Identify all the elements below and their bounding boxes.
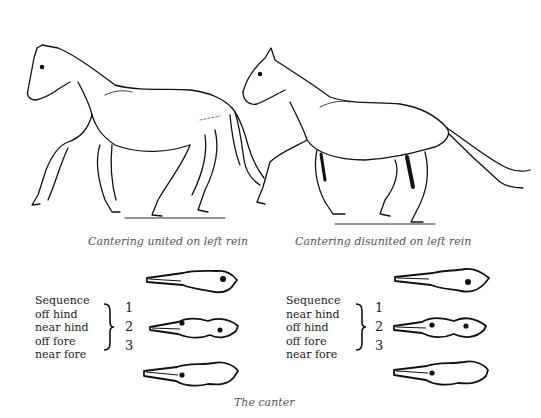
step-number: 1 bbox=[375, 298, 383, 317]
horse-united-illustration bbox=[20, 20, 270, 225]
step-number: 3 bbox=[375, 336, 383, 355]
footprint-united-1 bbox=[145, 265, 240, 300]
caption-united: Cantering united on left rein bbox=[88, 235, 248, 248]
sequence-item: near fore bbox=[35, 348, 89, 362]
step-number: 2 bbox=[375, 317, 383, 336]
sequence-list-united: Sequence off hind near hind off fore nea… bbox=[35, 294, 89, 362]
sequence-list-disunited: Sequence near hind off hind off fore nea… bbox=[286, 294, 340, 362]
sequence-label: Sequence bbox=[35, 294, 89, 308]
step-numbers-united: 1 2 3 bbox=[125, 298, 133, 355]
sequence-item: off fore bbox=[286, 335, 340, 349]
footprint-disunited-1 bbox=[393, 265, 493, 300]
brace-icon bbox=[102, 302, 116, 352]
sequence-item: near hind bbox=[286, 308, 340, 322]
footprint-disunited-2 bbox=[392, 312, 492, 347]
step-number: 1 bbox=[125, 298, 133, 317]
sequence-item: off hind bbox=[35, 308, 89, 322]
horse-disunited-illustration bbox=[235, 22, 535, 227]
sequence-item: off hind bbox=[286, 321, 340, 335]
step-numbers-disunited: 1 2 3 bbox=[375, 298, 383, 355]
sequence-item: near hind bbox=[35, 321, 89, 335]
brace-icon bbox=[354, 302, 368, 352]
footprint-united-3 bbox=[142, 359, 242, 394]
sequence-item: off fore bbox=[35, 335, 89, 349]
step-number: 3 bbox=[125, 336, 133, 355]
sequence-label: Sequence bbox=[286, 294, 340, 308]
footprint-united-2 bbox=[148, 312, 243, 347]
figure-title: The canter bbox=[234, 396, 294, 409]
step-number: 2 bbox=[125, 317, 133, 336]
sequence-item: near fore bbox=[286, 348, 340, 362]
caption-disunited: Cantering disunited on left rein bbox=[295, 235, 471, 248]
footprint-disunited-3 bbox=[392, 358, 492, 393]
